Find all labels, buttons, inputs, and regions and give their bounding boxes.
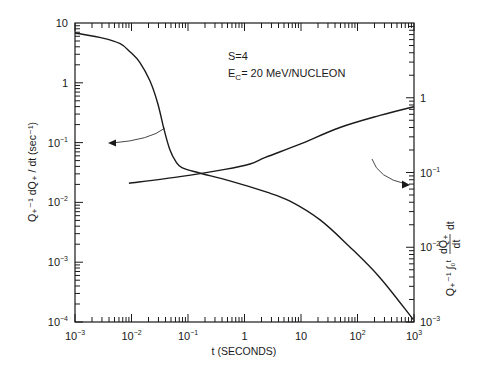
svg-text:Q₊⁻¹ ∫₀ᵗ: Q₊⁻¹ ∫₀ᵗ	[444, 260, 456, 296]
x-tick-label: 10	[295, 330, 307, 342]
integral-curve-right-axis	[129, 107, 414, 184]
y-axis-right-title: Q₊⁻¹ ∫₀ᵗ dQ₊ dt dt	[437, 221, 462, 296]
y-right-tick-label: 10−1	[420, 166, 440, 179]
x-tick-label: 10−2	[121, 329, 141, 342]
x-tick-label: 10−3	[65, 329, 85, 342]
x-tick-label: 103	[406, 329, 422, 342]
x-tick-label: 10−1	[178, 329, 198, 342]
arrow-to-left-axis	[108, 128, 165, 147]
y-axis-left-title: Q₊⁻¹ dQ₊ / dt (sec⁻¹)	[26, 122, 38, 222]
x-tick-label: 102	[349, 329, 365, 342]
y-left-tick-label: 10	[56, 17, 68, 29]
svg-text:dt: dt	[444, 221, 456, 230]
annotation-ec: EC= 20 MeV/NUCLEON	[228, 67, 345, 82]
tick-labels: 10−310−210−111010210310110−110−210−310−4…	[48, 17, 441, 342]
y-left-tick-label: 10−4	[48, 315, 68, 328]
y-left-tick-label: 10−3	[48, 255, 68, 268]
y-left-tick-label: 10−1	[48, 136, 68, 149]
svg-text:dt: dt	[450, 240, 462, 249]
y-left-tick-label: 10−2	[48, 195, 68, 208]
x-axis-title: t (SECONDS)	[212, 345, 277, 357]
x-tick-label: 1	[241, 330, 247, 342]
annotation-s: S=4	[228, 50, 248, 62]
y-left-tick-label: 1	[62, 77, 68, 89]
svg-text:dQ₊: dQ₊	[437, 234, 449, 254]
arrow-to-right-axis	[372, 159, 410, 189]
y-right-tick-label: 10−3	[420, 315, 440, 328]
y-right-tick-label: 1	[420, 92, 426, 104]
chart: 10−310−210−111010210310110−110−210−310−4…	[0, 0, 487, 377]
